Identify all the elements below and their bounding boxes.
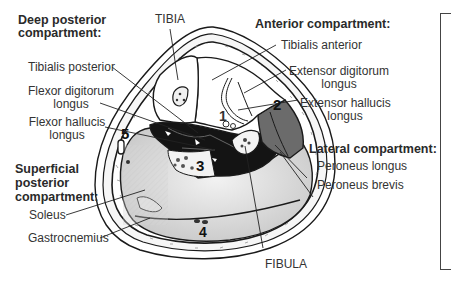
tibia-label: TIBIA bbox=[155, 13, 185, 26]
saphenous-vein bbox=[118, 140, 124, 154]
peroneus-brevis-label: Peroneus brevis bbox=[317, 179, 404, 192]
anterior-heading: Anterior compartment: bbox=[255, 18, 390, 31]
region-number-4: 4 bbox=[199, 226, 207, 239]
gastrocnemius-label: Gastrocnemius bbox=[28, 232, 109, 245]
flexor-digitorum-longus-label: Flexor digitorum longus bbox=[28, 85, 114, 111]
region-number-5: 5 bbox=[121, 127, 129, 140]
tibialis-anterior-label: Tibialis anterior bbox=[281, 39, 362, 52]
deep-posterior-heading: Deep posterior compartment: bbox=[18, 14, 106, 40]
tibialis-posterior-label: Tibialis posterior bbox=[28, 61, 115, 74]
region-number-1: 1 bbox=[219, 110, 227, 123]
lateral-heading: Lateral compartment: bbox=[309, 143, 437, 156]
peroneus-longus-label: Peroneus longus bbox=[317, 160, 407, 173]
region-number-3: 3 bbox=[196, 159, 204, 172]
right-frame-border bbox=[440, 13, 451, 270]
region-number-2: 2 bbox=[273, 98, 281, 111]
fibula-label: FIBULA bbox=[265, 258, 307, 271]
extensor-hallucis-longus-label: Extensor hallucis longus bbox=[300, 97, 390, 123]
superficial-posterior-heading: Superficial posterior compartment: bbox=[15, 162, 98, 204]
extensor-digitorum-longus-label: Extensor digitorum longus bbox=[289, 65, 389, 91]
soleus-label: Soleus bbox=[29, 209, 66, 222]
flexor-hallucis-longus-label: Flexor hallucis longus bbox=[28, 116, 106, 142]
